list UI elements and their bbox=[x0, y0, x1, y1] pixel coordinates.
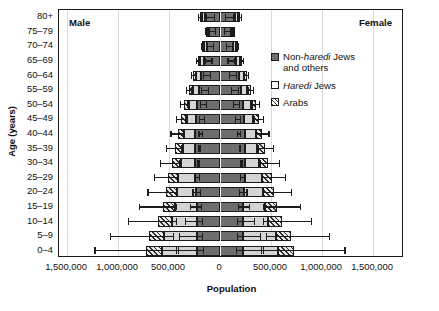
x-axis-tick-label: 1,000,000 bbox=[300, 261, 342, 272]
error-bar-outer-female-cap bbox=[241, 14, 242, 21]
error-bar-outer-female-cap bbox=[253, 87, 254, 94]
error-bar-inner-female-cap bbox=[226, 43, 227, 50]
error-bar-outer-male-cap bbox=[154, 174, 155, 181]
pyramid-row bbox=[59, 27, 402, 37]
error-bar-outer-male-cap bbox=[183, 131, 184, 138]
error-bar-outer-female-cap bbox=[244, 72, 245, 79]
error-bar-inner-male-cap bbox=[192, 189, 193, 196]
error-bar-outer-male-cap bbox=[110, 233, 111, 240]
error-bar-outer-male bbox=[161, 163, 180, 164]
error-bar-outer-male-cap bbox=[198, 14, 199, 21]
error-bar-inner-female-cap bbox=[237, 131, 238, 138]
error-bar-outer-male-cap bbox=[196, 58, 197, 65]
x-axis-tick-labels: 1,500,0001,000,000500,0000500,0001,000,0… bbox=[0, 261, 439, 277]
error-bar-inner-male-cap bbox=[198, 160, 199, 167]
error-bar-inner-male-cap bbox=[205, 58, 206, 65]
bar-segment-haredi-female bbox=[245, 173, 262, 183]
error-bar-outer-male bbox=[110, 236, 173, 237]
error-bar-outer-female-cap bbox=[240, 58, 241, 65]
error-bar-outer-male-cap bbox=[180, 101, 181, 108]
population-pyramid-figure: Age (years) 0–45–910–1415–1920–2425–2930… bbox=[0, 0, 439, 311]
error-bar-outer-male-cap bbox=[176, 218, 177, 225]
error-bar-outer-female-cap bbox=[238, 43, 239, 50]
legend-item-arabs: Arabs bbox=[271, 97, 355, 108]
error-bar-inner-male-cap bbox=[208, 87, 209, 94]
error-bar-inner-female-cap bbox=[229, 72, 230, 79]
x-axis-tick-label: 0 bbox=[216, 261, 221, 272]
pyramid-row bbox=[59, 187, 402, 197]
error-bar-inner-female-cap bbox=[225, 14, 226, 21]
error-bar-inner-male-cap bbox=[210, 72, 211, 79]
pyramid-row bbox=[59, 202, 402, 212]
error-bar-outer-female-cap bbox=[263, 218, 264, 225]
error-bar-outer-male-cap bbox=[178, 174, 179, 181]
error-bar-outer-female-cap bbox=[238, 14, 239, 21]
bar-segment-haredi-male bbox=[178, 173, 195, 183]
x-axis-tick-label: 1,500,000 bbox=[45, 261, 87, 272]
error-bar-inner-female-cap bbox=[232, 43, 233, 50]
error-bar-inner-male-cap bbox=[207, 43, 208, 50]
error-bar-outer-male-cap bbox=[179, 160, 180, 167]
legend-item-non-haredi: Non-haredi Jewsand others bbox=[271, 51, 355, 74]
bar-segment-haredi-female bbox=[245, 143, 257, 153]
error-bar-inner-female-cap bbox=[231, 87, 232, 94]
error-bar-outer-female bbox=[257, 133, 269, 134]
error-bar-outer-female-cap bbox=[248, 72, 249, 79]
error-bar-outer-male-cap bbox=[176, 116, 177, 123]
error-bar-inner-female-cap bbox=[235, 116, 236, 123]
error-bar-inner-female bbox=[238, 206, 249, 207]
error-bar-outer-female-cap bbox=[285, 174, 286, 181]
error-bar-inner-female-cap bbox=[237, 218, 238, 225]
error-bar-inner-female-cap bbox=[234, 58, 235, 65]
error-bar-outer-male-cap bbox=[198, 58, 199, 65]
error-bar-outer-female bbox=[262, 192, 292, 193]
error-bar-outer-male-cap bbox=[186, 87, 187, 94]
y-axis-tick-label: 80+ bbox=[13, 11, 53, 20]
bar-segment-haredi-male bbox=[184, 129, 195, 139]
x-axis-tick-label: 500,000 bbox=[151, 261, 185, 272]
error-bar-outer-female-cap bbox=[259, 101, 260, 108]
error-bar-outer-female bbox=[262, 250, 345, 251]
error-bar-outer-male-cap bbox=[139, 204, 140, 211]
error-bar-outer-female bbox=[263, 206, 300, 207]
error-bar-inner-male bbox=[190, 206, 201, 207]
error-bar-inner-male-cap bbox=[203, 247, 204, 254]
y-axis-tick-labels: 0–45–910–1415–1920–2425–2930–3435–3940–4… bbox=[16, 9, 56, 257]
error-bar-outer-male-cap bbox=[181, 145, 182, 152]
error-bar-outer-female-cap bbox=[266, 233, 267, 240]
y-axis-tick-label: 10–14 bbox=[13, 216, 53, 225]
error-bar-outer-female bbox=[266, 236, 329, 237]
error-bar-outer-male bbox=[166, 148, 181, 149]
error-bar-inner-female-cap bbox=[240, 145, 241, 152]
pyramid-row bbox=[59, 129, 402, 139]
bar-segment-haredi-male bbox=[200, 56, 204, 66]
bar-segment-haredi-male bbox=[183, 143, 195, 153]
bar-segment-haredi-male bbox=[181, 158, 195, 168]
error-bar-inner-male-cap bbox=[213, 43, 214, 50]
error-bar-outer-male-cap bbox=[160, 160, 161, 167]
error-bar-inner-female bbox=[238, 221, 254, 222]
error-bar-outer-male bbox=[139, 206, 176, 207]
pyramid-row bbox=[59, 173, 402, 183]
error-bar-inner-female bbox=[236, 250, 264, 251]
error-bar-inner-male-cap bbox=[200, 189, 201, 196]
male-side-label: Male bbox=[69, 17, 90, 28]
error-bar-outer-female-cap bbox=[247, 87, 248, 94]
error-bar-inner-male-cap bbox=[200, 101, 201, 108]
legend-swatch-non-haredi bbox=[271, 53, 279, 61]
error-bar-outer-male-cap bbox=[166, 145, 167, 152]
error-bar-outer-female-cap bbox=[258, 145, 259, 152]
pyramid-row bbox=[59, 231, 402, 241]
error-bar-inner-male-cap bbox=[190, 204, 191, 211]
zero-axis-line bbox=[220, 10, 221, 256]
y-axis-tick-label: 0–4 bbox=[13, 245, 53, 254]
legend-label-haredi: Haredi Jews bbox=[283, 80, 336, 91]
y-axis-tick-label: 35–39 bbox=[13, 143, 53, 152]
error-bar-outer-female-cap bbox=[256, 131, 257, 138]
error-bar-inner-male-cap bbox=[202, 131, 203, 138]
error-bar-inner-female-cap bbox=[240, 131, 241, 138]
y-axis-tick-label: 65–69 bbox=[13, 55, 53, 64]
x-axis-tick-label: 1,000,000 bbox=[96, 261, 138, 272]
bar-segment-haredi-male bbox=[202, 12, 204, 22]
error-bar-outer-male-cap bbox=[206, 28, 207, 35]
